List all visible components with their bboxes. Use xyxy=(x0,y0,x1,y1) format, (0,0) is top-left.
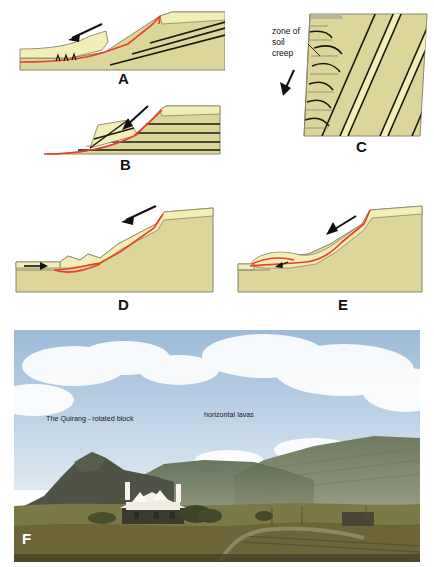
panel-letter-d: D xyxy=(118,296,129,313)
panel-d-debris-flow: D xyxy=(8,200,223,300)
panel-c-soil-creep: zone of soil creep C xyxy=(262,4,430,154)
panel-e-flow-slide: E xyxy=(230,200,430,300)
panel-letter-a: A xyxy=(118,70,129,87)
quirang-photo xyxy=(14,330,420,562)
soil-creep-label: zone of soil creep xyxy=(272,26,300,60)
movement-arrow xyxy=(280,70,294,96)
panel-letter-b: B xyxy=(120,156,131,173)
panel-b-diagram xyxy=(42,98,242,158)
top-cap xyxy=(310,14,342,19)
panel-f-photograph: The Quirang - rotated block horizontal l… xyxy=(14,330,420,562)
panel-d-diagram xyxy=(8,200,223,300)
bench xyxy=(238,264,254,270)
quirang-rotated-block-label: The Quirang - rotated block xyxy=(46,414,134,423)
panel-a-diagram xyxy=(10,2,225,72)
panel-e-diagram xyxy=(230,200,430,300)
bench xyxy=(16,262,60,268)
head-scarp xyxy=(159,16,160,24)
panel-letter-c: C xyxy=(356,138,367,155)
outbuilding xyxy=(342,512,374,526)
mass-movement-figure: A xyxy=(0,0,434,567)
horizontal-lavas-label: horizontal lavas xyxy=(204,410,254,419)
panel-letter-f: F xyxy=(22,530,31,547)
upper-bed xyxy=(160,106,220,116)
panel-letter-e: E xyxy=(338,296,348,313)
movement-arrow xyxy=(121,206,156,225)
foreground-shadow xyxy=(14,554,420,562)
panel-a-translational-slide: A xyxy=(10,2,225,72)
panel-b-rotational-slump: B xyxy=(42,98,242,158)
